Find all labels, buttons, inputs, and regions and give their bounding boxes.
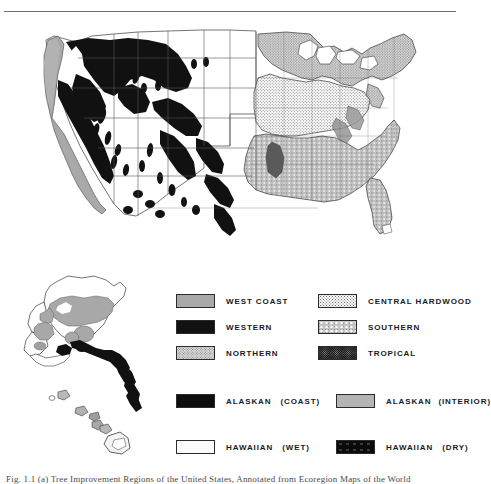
legend-label-alaskan-coast: ALASKAN	[226, 397, 271, 406]
map-legend: WEST COAST CENTRAL HARDWOOD WESTERN SOUT…	[170, 290, 460, 475]
legend-item-alaskan-interior[interactable]: ALASKAN (INTERIOR)	[336, 394, 491, 408]
legend-item-northern[interactable]: NORTHERN	[176, 346, 279, 360]
conterminous-us-map	[18, 18, 442, 258]
legend-swatch-northern-icon	[176, 346, 215, 360]
figure-caption: Fig. 1.1 (a) Tree Improvement Regions of…	[6, 474, 458, 484]
legend-swatch-alaskan-interior-icon	[336, 394, 375, 408]
legend-qualifier-hawaiian-wet: (WET)	[282, 443, 310, 452]
legend-swatch-west-coast-icon	[176, 294, 215, 308]
legend-label-west-coast: WEST COAST	[226, 297, 288, 306]
legend-swatch-central-hardwood-icon	[318, 294, 357, 308]
legend-swatch-western-icon	[176, 320, 215, 334]
legend-qualifier-hawaiian-dry: (DRY)	[442, 443, 468, 452]
legend-item-central-hardwood[interactable]: CENTRAL HARDWOOD	[318, 294, 472, 308]
legend-item-western[interactable]: WESTERN	[176, 320, 272, 334]
legend-item-hawaiian-dry[interactable]: HAWAIIAN (DRY)	[336, 440, 469, 454]
map-region-southern	[244, 120, 400, 234]
legend-label-hawaiian-wet: HAWAIIAN	[226, 443, 273, 452]
legend-item-southern[interactable]: SOUTHERN	[318, 320, 420, 334]
legend-qualifier-alaskan-coast: (COAST)	[280, 397, 320, 406]
legend-label-western: WESTERN	[226, 323, 272, 332]
legend-label-central-hardwood: CENTRAL HARDWOOD	[368, 297, 472, 306]
legend-label-hawaiian-dry: HAWAIIAN	[386, 443, 433, 452]
legend-item-hawaiian-wet[interactable]: HAWAIIAN (WET)	[176, 440, 310, 454]
legend-label-tropical: TROPICAL	[368, 349, 416, 358]
legend-swatch-tropical-icon	[318, 346, 357, 360]
top-horizontal-rule	[4, 11, 456, 12]
legend-qualifier-alaskan-interior: (INTERIOR)	[438, 397, 491, 406]
alaska-region-coast	[56, 340, 142, 412]
legend-item-tropical[interactable]: TROPICAL	[318, 346, 416, 360]
legend-item-alaskan-coast[interactable]: ALASKAN (COAST)	[176, 394, 320, 408]
legend-swatch-hawaiian-wet-icon	[176, 440, 215, 454]
alaska-hawaii-inset	[14, 262, 164, 457]
legend-swatch-hawaiian-dry-icon	[336, 440, 375, 454]
legend-item-west-coast[interactable]: WEST COAST	[176, 294, 288, 308]
legend-swatch-southern-icon	[318, 320, 357, 334]
legend-label-alaskan-interior: ALASKAN	[386, 397, 431, 406]
legend-label-northern: NORTHERN	[226, 349, 279, 358]
legend-swatch-alaskan-coast-icon	[176, 394, 215, 408]
legend-label-southern: SOUTHERN	[368, 323, 420, 332]
hawaiian-islands	[49, 390, 130, 454]
